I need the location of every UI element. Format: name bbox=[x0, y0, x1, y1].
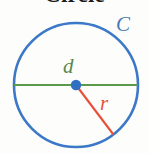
circle-diagram-canvas bbox=[0, 0, 149, 154]
radius-line bbox=[76, 85, 113, 134]
center-dot bbox=[71, 80, 81, 90]
circle-diagram-figure: Circle C d r bbox=[0, 0, 149, 154]
